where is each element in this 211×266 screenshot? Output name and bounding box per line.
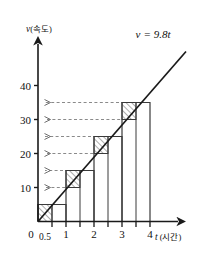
x-axis-title-var: t xyxy=(155,232,158,242)
hatched-rect-2 xyxy=(66,171,80,188)
y-tick-label-40: 40 xyxy=(20,80,32,92)
y-tick-label-30: 30 xyxy=(20,114,32,126)
x-axis-title-paren: (시간) xyxy=(160,232,182,242)
y-tick-label-10: 10 xyxy=(20,182,32,194)
y-axis-title-paren: (속도) xyxy=(30,24,52,34)
y-axis-tick-labels: 10 20 30 40 xyxy=(20,80,32,194)
x-axis-ticks xyxy=(52,222,150,228)
y-tick-label-20: 20 xyxy=(20,148,32,160)
equation-rhs: = 9.8t xyxy=(143,28,171,40)
x-tick-label-4: 4 xyxy=(147,228,153,240)
plot-area: 10 20 30 40 0 0.5 1 2 3 4 v(속도) t(시간) v=… xyxy=(0,0,211,266)
x-tick-label-2: 2 xyxy=(91,228,97,240)
x-tick-label-1: 1 xyxy=(63,228,69,240)
riemann-step-rectangles xyxy=(38,103,150,222)
equation-annotation: v= 9.8t xyxy=(136,28,172,40)
velocity-line xyxy=(38,52,186,222)
y-axis-title: v(속도) xyxy=(26,24,52,34)
velocity-time-figure: 10 20 30 40 0 0.5 1 2 3 4 v(속도) t(시간) v=… xyxy=(0,0,211,266)
x-tick-label-0p5: 0.5 xyxy=(39,232,51,242)
hatched-rect-3 xyxy=(94,137,108,154)
origin-label: 0 xyxy=(28,228,34,240)
x-axis-title: t(시간) xyxy=(155,232,181,242)
equation-lhs: v xyxy=(136,28,141,40)
x-axis-tick-labels: 0 0.5 1 2 3 4 xyxy=(28,228,153,242)
x-tick-label-3: 3 xyxy=(119,228,125,240)
